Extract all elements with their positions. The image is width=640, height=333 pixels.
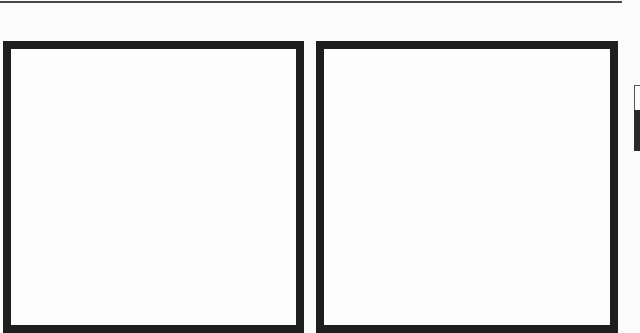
side-tab-outline-box <box>634 85 640 111</box>
left-panel-content <box>11 49 296 325</box>
right-blank-panel <box>316 41 618 333</box>
right-panel-content <box>324 49 610 325</box>
edge-side-tab <box>634 85 640 151</box>
left-blank-panel <box>3 41 304 333</box>
side-tab-dark-block <box>634 110 640 151</box>
top-rule-divider <box>0 1 622 3</box>
